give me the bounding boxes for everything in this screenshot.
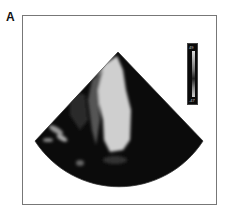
colorbar-gradient	[192, 51, 195, 97]
colorbar-max-label: 49	[189, 45, 193, 50]
ultrasound-sector-image	[0, 0, 227, 215]
colorbar-min-label: -47	[189, 98, 195, 103]
colorbar: 49 -47	[187, 43, 198, 105]
